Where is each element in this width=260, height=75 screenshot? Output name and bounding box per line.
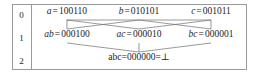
node-ac-bits: 000010 <box>133 29 162 39</box>
node-ac: ac=000010 <box>103 28 175 41</box>
node-c-bits: 001011 <box>203 6 231 16</box>
node-c-equals: = <box>195 6 202 16</box>
lattice-level-0: a=100110 b=010101 c=001011 <box>31 5 247 18</box>
node-bc-equals: = <box>198 29 205 39</box>
node-abc-bits: 000000 <box>127 52 156 62</box>
level-index-2: 2 <box>12 56 31 66</box>
node-a-equals: = <box>52 6 59 16</box>
level-index-1: 1 <box>12 33 31 43</box>
node-ab-bits: 000100 <box>61 29 90 39</box>
node-bc-bits: 000001 <box>205 29 234 39</box>
node-ab-label: ab <box>44 29 54 39</box>
node-b-bits: 010101 <box>131 6 160 16</box>
node-bc: bc=000001 <box>175 28 247 41</box>
node-a: a=100110 <box>31 5 103 18</box>
node-c: c=001011 <box>175 5 247 18</box>
bottom-element-icon: ⊥ <box>161 52 170 62</box>
node-bc-label: bc <box>189 29 198 39</box>
lattice-level-2: abc=000000=⊥ <box>31 51 247 64</box>
level-index-0: 0 <box>12 10 31 20</box>
node-abc: abc=000000=⊥ <box>31 51 247 64</box>
node-b: b=010101 <box>103 5 175 18</box>
node-b-equals: = <box>123 6 130 16</box>
lattice-figure: 0 1 2 a=100110 b=010101 c= <box>0 0 260 75</box>
node-ac-equals: = <box>126 29 133 39</box>
node-ab: ab=000100 <box>31 28 103 41</box>
lattice-level-1: ab=000100 ac=000010 bc=000001 <box>31 28 247 41</box>
node-ac-label: ac <box>117 29 126 39</box>
node-a-bits: 100110 <box>59 6 87 16</box>
level-index-column: 0 1 2 <box>12 4 31 70</box>
node-abc-label: abc <box>108 52 121 62</box>
node-a-label: a <box>47 6 52 16</box>
